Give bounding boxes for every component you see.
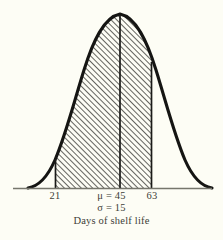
sigma-annotation: σ = 15 <box>0 202 223 214</box>
parameter-annotations: μ = 45 σ = 15 <box>0 190 223 213</box>
mean-annotation: μ = 45 <box>0 190 223 202</box>
x-axis-caption: Days of shelf life <box>0 216 223 227</box>
normal-distribution-figure: 21 63 μ = 45 σ = 15 Days of shelf life <box>0 0 223 240</box>
